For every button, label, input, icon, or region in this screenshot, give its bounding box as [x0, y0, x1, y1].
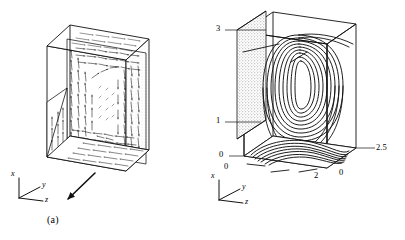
x-tick-1: 1 — [216, 116, 220, 125]
panel-b: 3 1 0 0 2 0 2.5 x y z (b) — [203, 0, 405, 240]
axis-label-y-b: y — [242, 183, 246, 191]
axis-label-x-b: x — [211, 172, 215, 180]
axis-triad-a — [19, 178, 43, 201]
x-tick-3: 3 — [216, 24, 220, 33]
figure: x y z (a) — [0, 0, 405, 240]
streamline-tails-b — [263, 34, 353, 152]
z-tick-2: 2 — [314, 171, 318, 180]
panel-a-stage — [0, 0, 202, 240]
y-tick-0: 0 — [339, 168, 343, 177]
y-tick-2point5: 2.5 — [376, 143, 387, 152]
z-tick-0: 0 — [224, 162, 228, 171]
x-tick-0: 0 — [219, 150, 223, 159]
axis-label-y-a: y — [42, 181, 46, 189]
panel-b-graphic — [203, 0, 405, 240]
axis-label-x-a: x — [11, 170, 15, 178]
panel-b-stage — [203, 0, 405, 240]
scale-arrow-a[interactable] — [68, 173, 95, 199]
streamlines-b — [263, 35, 343, 141]
axis-label-z-b: z — [245, 198, 248, 206]
panel-a: x y z (a) — [0, 0, 202, 240]
panel-a-graphic — [0, 0, 202, 240]
axis-label-z-a: z — [45, 196, 48, 204]
panel-a-caption: (a) — [47, 214, 59, 225]
axis-triad-b — [219, 180, 243, 203]
